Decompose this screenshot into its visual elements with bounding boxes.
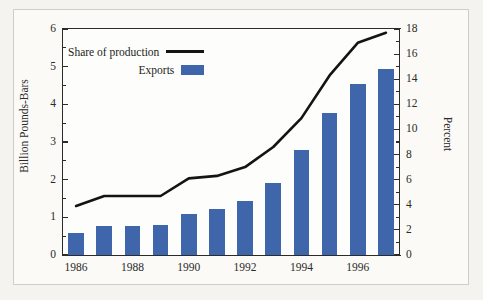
x-tick-label-1986: 1986 xyxy=(56,262,96,274)
y-tick-label-right-16: 16 xyxy=(406,48,428,60)
y-tick-label-right-10: 10 xyxy=(406,123,428,135)
chart-legend: Share of production Exports xyxy=(68,44,204,80)
y-tick-right-2 xyxy=(394,229,400,230)
y-tick-label-right-2: 2 xyxy=(406,224,428,236)
y-tick-left-6 xyxy=(62,28,68,29)
legend-item-share-of-production: Share of production xyxy=(68,44,204,59)
y-tick-left-minor-0.5 xyxy=(62,236,66,237)
y-tick-right-18 xyxy=(394,28,400,29)
y-tick-label-left-5: 5 xyxy=(36,61,56,73)
y-tick-right-minor-13 xyxy=(396,91,400,92)
x-tick-label-1988: 1988 xyxy=(112,262,152,274)
y-tick-label-left-1: 1 xyxy=(36,211,56,223)
y-tick-right-minor-17 xyxy=(396,41,400,42)
y-tick-right-minor-1 xyxy=(396,242,400,243)
plot-top-border xyxy=(62,28,401,29)
y-tick-label-left-4: 4 xyxy=(36,98,56,110)
y-tick-label-right-8: 8 xyxy=(406,149,428,161)
y-tick-right-10 xyxy=(394,129,400,130)
y-axis-right-title: Percent xyxy=(442,104,454,164)
y-tick-label-right-12: 12 xyxy=(406,98,428,110)
y-tick-left-0 xyxy=(62,254,68,255)
x-tick-label-1996: 1996 xyxy=(338,262,378,274)
y-tick-right-minor-3 xyxy=(396,217,400,218)
y-tick-right-minor-5 xyxy=(396,192,400,193)
y-tick-right-minor-7 xyxy=(396,167,400,168)
y-tick-left-minor-5.5 xyxy=(62,47,66,48)
y-tick-label-right-6: 6 xyxy=(406,174,428,186)
y-tick-left-4 xyxy=(62,104,68,105)
y-tick-left-minor-3.5 xyxy=(62,123,66,124)
y-tick-right-minor-11 xyxy=(396,116,400,117)
y-axis-left-title: Billion Pounds-Bars xyxy=(18,66,30,186)
y-tick-label-left-0: 0 xyxy=(36,249,56,261)
y-tick-label-left-2: 2 xyxy=(36,174,56,186)
y-tick-right-minor-9 xyxy=(396,141,400,142)
legend-label-exports: Exports xyxy=(139,64,175,76)
x-tick-label-1990: 1990 xyxy=(169,262,209,274)
y-tick-label-right-18: 18 xyxy=(406,23,428,35)
y-tick-right-14 xyxy=(394,79,400,80)
y-tick-left-minor-4.5 xyxy=(62,85,66,86)
y-tick-right-0 xyxy=(394,254,400,255)
y-tick-label-left-3: 3 xyxy=(36,136,56,148)
y-tick-right-16 xyxy=(394,54,400,55)
y-tick-label-right-4: 4 xyxy=(406,199,428,211)
y-tick-label-right-14: 14 xyxy=(406,73,428,85)
figure-container: 0123456024681012141618198619881990199219… xyxy=(0,0,483,300)
y-tick-right-6 xyxy=(394,179,400,180)
y-tick-left-1 xyxy=(62,217,68,218)
legend-line-marker xyxy=(166,50,204,53)
legend-label-share-of-production: Share of production xyxy=(68,46,159,58)
y-tick-left-minor-2.5 xyxy=(62,160,66,161)
y-tick-label-left-6: 6 xyxy=(36,23,56,35)
y-tick-right-8 xyxy=(394,154,400,155)
y-tick-right-12 xyxy=(394,104,400,105)
legend-swatch-marker xyxy=(181,65,204,75)
x-axis-line xyxy=(62,255,401,256)
y-tick-left-minor-1.5 xyxy=(62,198,66,199)
y-tick-label-right-0: 0 xyxy=(406,249,428,261)
y-tick-left-3 xyxy=(62,141,68,142)
y-tick-left-2 xyxy=(62,179,68,180)
y-tick-right-minor-15 xyxy=(396,66,400,67)
x-tick-label-1992: 1992 xyxy=(225,262,265,274)
legend-item-exports: Exports xyxy=(68,62,204,77)
y-tick-right-4 xyxy=(394,204,400,205)
x-tick-label-1994: 1994 xyxy=(281,262,321,274)
